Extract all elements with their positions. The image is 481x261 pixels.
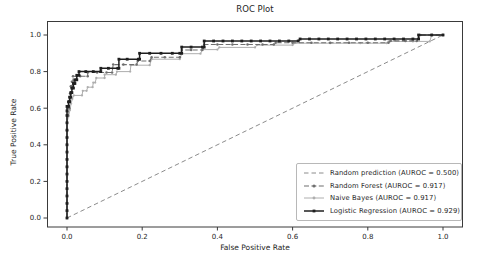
series-marker-logistic-regression — [250, 40, 253, 43]
series-marker-logistic-regression — [99, 70, 102, 73]
series-marker-logistic-regression — [203, 40, 206, 43]
legend-sample-marker — [313, 209, 316, 212]
legend-sample-marker — [313, 197, 316, 200]
series-marker-random-forest — [201, 49, 204, 52]
series-marker-logistic-regression — [430, 34, 433, 37]
series-marker-logistic-regression — [383, 38, 386, 41]
legend-item-logistic-regression: Logistic Regression (AUROC = 0.929) — [303, 205, 456, 218]
series-marker-logistic-regression — [442, 34, 445, 37]
series-marker-logistic-regression — [212, 40, 215, 43]
series-marker-random-forest — [105, 71, 108, 74]
y-tick-label: 0.2 — [30, 178, 41, 186]
legend-sample-random-prediction — [303, 168, 325, 178]
series-marker-logistic-regression — [66, 110, 69, 113]
series-marker-logistic-regression — [148, 52, 151, 55]
series-marker-random-forest — [190, 49, 193, 52]
series-marker-logistic-regression — [66, 217, 69, 220]
series-marker-naive-bayes — [94, 81, 96, 83]
series-marker-random-forest — [274, 41, 277, 44]
series-marker-naive-bayes — [87, 86, 89, 88]
legend-item-naive-bayes: Naive Bayes (AUROC = 0.917) — [303, 192, 456, 205]
x-tick-label: 1.0 — [437, 233, 448, 241]
series-marker-random-forest — [310, 41, 313, 44]
series-marker-naive-bayes — [216, 48, 218, 50]
series-marker-naive-bayes — [149, 64, 151, 66]
series-marker-logistic-regression — [66, 136, 69, 139]
series-marker-logistic-regression — [318, 38, 321, 41]
series-marker-logistic-regression — [240, 40, 243, 43]
series-marker-naive-bayes — [218, 46, 220, 48]
series-marker-logistic-regression — [99, 67, 102, 70]
series-marker-random-forest — [367, 41, 370, 44]
series-marker-logistic-regression — [417, 34, 420, 37]
legend-label: Naive Bayes (AUROC = 0.917) — [330, 194, 436, 202]
series-marker-logistic-regression — [66, 151, 69, 154]
y-tick-label: 0.8 — [30, 68, 41, 76]
series-marker-logistic-regression — [78, 70, 81, 73]
series-marker-logistic-regression — [67, 105, 70, 108]
series-marker-logistic-regression — [203, 46, 206, 49]
x-tick-label: 0.2 — [137, 233, 148, 241]
y-tick-label: 0.6 — [30, 105, 42, 113]
series-marker-naive-bayes — [85, 90, 87, 92]
series-marker-random-forest — [122, 63, 125, 66]
x-tick-label: 0.4 — [212, 233, 224, 241]
x-tick-label: 0.6 — [287, 233, 299, 241]
series-marker-random-forest — [261, 43, 264, 46]
series-marker-logistic-regression — [346, 38, 349, 41]
series-marker-logistic-regression — [231, 40, 234, 43]
legend: Random prediction (AUROC = 0.500) Random… — [296, 163, 462, 221]
series-marker-random-forest — [112, 63, 115, 66]
legend-item-random-prediction: Random prediction (AUROC = 0.500) — [303, 167, 456, 180]
series-marker-logistic-regression — [66, 209, 69, 212]
series-marker-logistic-regression — [66, 173, 69, 176]
series-marker-naive-bayes — [116, 70, 118, 72]
series-marker-logistic-regression — [365, 38, 368, 41]
series-marker-logistic-regression — [278, 40, 281, 43]
series-marker-logistic-regression — [72, 87, 75, 90]
series-marker-logistic-regression — [126, 58, 129, 61]
y-tick-label: 0.0 — [30, 214, 41, 222]
series-marker-naive-bayes — [81, 94, 83, 96]
series-marker-logistic-regression — [259, 40, 262, 43]
series-marker-logistic-regression — [327, 38, 330, 41]
series-marker-naive-bayes — [73, 94, 75, 96]
series-marker-logistic-regression — [190, 46, 193, 49]
series-marker-logistic-regression — [299, 38, 302, 41]
series-marker-naive-bayes — [95, 77, 97, 79]
series-marker-naive-bayes — [103, 74, 105, 76]
series-marker-logistic-regression — [287, 40, 290, 43]
legend-sample-logistic-regression — [303, 206, 325, 216]
series-marker-logistic-regression — [66, 165, 69, 168]
series-marker-logistic-regression — [308, 38, 311, 41]
series-marker-random-forest — [291, 41, 294, 44]
series-marker-logistic-regression — [402, 38, 405, 41]
legend-label: Random prediction (AUROC = 0.500) — [330, 169, 459, 177]
series-marker-logistic-regression — [160, 52, 163, 55]
legend-sample-random-forest — [303, 181, 325, 191]
y-tick-label: 0.4 — [30, 141, 42, 149]
series-marker-logistic-regression — [84, 70, 87, 73]
series-marker-logistic-regression — [417, 38, 420, 41]
series-marker-logistic-regression — [412, 38, 415, 41]
series-marker-logistic-regression — [138, 52, 141, 55]
series-marker-random-forest — [164, 56, 167, 59]
legend-item-random-forest: Random Forest (AUROC = 0.917) — [303, 180, 456, 193]
series-marker-logistic-regression — [71, 91, 74, 94]
series-marker-logistic-regression — [138, 58, 141, 61]
legend-label: Logistic Regression (AUROC = 0.929) — [330, 207, 460, 215]
series-marker-logistic-regression — [69, 96, 72, 99]
series-marker-logistic-regression — [66, 187, 69, 190]
plot-area-svg: 0.00.20.40.60.81.00.00.20.40.60.81.0 — [0, 0, 481, 261]
series-marker-logistic-regression — [92, 70, 95, 73]
series-marker-logistic-regression — [118, 67, 121, 70]
series-marker-naive-bayes — [103, 77, 105, 79]
series-marker-logistic-regression — [68, 100, 71, 103]
series-marker-logistic-regression — [78, 74, 81, 77]
series-marker-logistic-regression — [66, 114, 69, 117]
series-marker-logistic-regression — [66, 129, 69, 132]
series-marker-random-forest — [72, 75, 75, 78]
series-marker-logistic-regression — [180, 46, 183, 49]
series-marker-logistic-regression — [75, 78, 78, 81]
series-marker-logistic-regression — [355, 38, 358, 41]
